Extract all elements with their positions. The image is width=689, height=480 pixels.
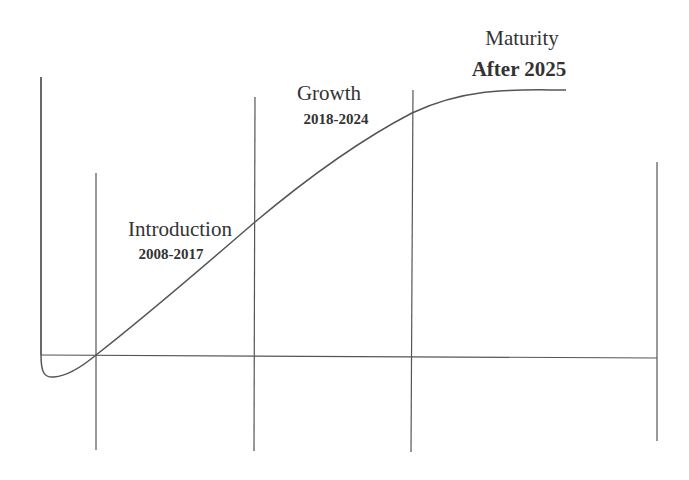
stage-label-growth: Growth (297, 81, 362, 105)
stage-years-maturity: After 2025 (472, 57, 567, 81)
divider-growth-start (254, 97, 255, 451)
stage-label-maturity: Maturity (485, 26, 559, 50)
divider-maturity-start (411, 90, 413, 452)
stage-years-introduction: 2008-2017 (139, 246, 204, 262)
stage-label-introduction: Introduction (128, 217, 232, 241)
x-axis-baseline (41, 355, 657, 358)
stage-years-growth: 2018-2024 (304, 111, 369, 127)
life-cycle-curve (41, 90, 566, 377)
life-cycle-diagram: Introduction 2008-2017 Growth 2018-2024 … (0, 0, 689, 480)
